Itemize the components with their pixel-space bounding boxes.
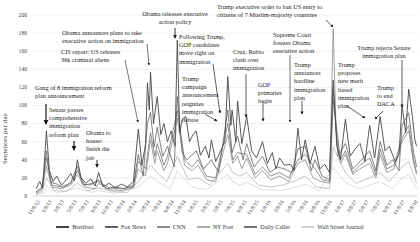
annotation-arrow-muslim-ban [326, 20, 333, 27]
legend-line-swatch [244, 226, 257, 228]
annotation-senate-passes: Senate passes comprehensive immigration … [49, 106, 87, 139]
y-tick-label: 180 [1, 30, 27, 36]
annotation-merit-plan: Trump proposes new merit based immigrati… [338, 61, 369, 110]
legend-line-swatch [197, 226, 210, 228]
y-tick-label: 140 [1, 66, 27, 72]
immigration-coverage-chart: Sentences per day 0204060801001201401601… [0, 0, 420, 242]
y-tick-label: 100 [1, 102, 27, 108]
y-tick-label: 0 [1, 193, 27, 199]
annotation-arrow-obama-plans [147, 44, 149, 65]
annotation-obama-plans: Obama announces plans to take executive … [62, 29, 144, 45]
annotation-gang-of-8: Gang of 8 immigration reform plan announ… [35, 84, 112, 100]
legend-label: NY Post [213, 224, 234, 230]
y-tick-label: 40 [1, 157, 27, 163]
series-line-wall-street-journal [36, 167, 417, 195]
legend-line-swatch [157, 226, 170, 228]
annotation-scotus-freeze: Supreme Court freezes Obama executive ac… [273, 31, 314, 56]
annotation-following-trump: Following Trump, GOP candidates move rig… [179, 33, 225, 66]
legend-item-cnn: CNN [157, 224, 186, 230]
annotation-cruz-rubio: Cruz, Rubio clash over immigration [233, 48, 264, 73]
annotation-trump-campaign: Trump campaign announcement reignites im… [182, 75, 219, 124]
annotation-end-daca: Trump to end DACA [377, 84, 395, 109]
legend-line-swatch [301, 226, 314, 228]
annotation-obama-releases: Obama releases executive action policy [138, 10, 212, 26]
legend-item-ny-post: NY Post [197, 224, 234, 230]
annotation-gop-primaries: GOP primaries begin [258, 81, 282, 106]
legend-label: Breitbart [72, 224, 94, 230]
legend-label: Fox News [121, 224, 146, 230]
annotation-rejects-senate: Trump rejects Senate immigration plan [353, 44, 415, 60]
y-tick-label: 160 [1, 48, 27, 54]
annotation-cis-report: CIS report: US releases 36k criminal ali… [61, 48, 120, 64]
legend-label: Wall Street Journal [317, 224, 364, 230]
y-tick-label: 80 [1, 120, 27, 126]
legend-line-swatch [56, 226, 69, 228]
legend-label: Daily Caller [260, 224, 290, 230]
y-tick-label: 60 [1, 139, 27, 145]
legend-item-daily-caller: Daily Caller [244, 224, 290, 230]
annotation-arrow-end-daca [375, 111, 383, 119]
y-tick-label: 120 [1, 84, 27, 90]
y-tick-label: 20 [1, 175, 27, 181]
annotation-obama-finish-job: Obama to house: finish the job [86, 129, 111, 162]
legend-item-fox-news: Fox News [105, 224, 146, 230]
y-tick-label: 200 [1, 12, 27, 18]
annotation-hardline-plan: Trump announces hardline immigration pla… [294, 61, 325, 102]
annotation-muslim-ban: Trump executive order to ban US entry to… [217, 3, 322, 19]
legend-line-swatch [105, 226, 118, 228]
legend-item-wall-street-journal: Wall Street Journal [301, 224, 364, 230]
legend-item-breitbart: Breitbart [56, 224, 94, 230]
legend: BreitbartFox NewsCNNNY PostDaily CallerW… [0, 224, 420, 230]
legend-label: CNN [173, 224, 186, 230]
